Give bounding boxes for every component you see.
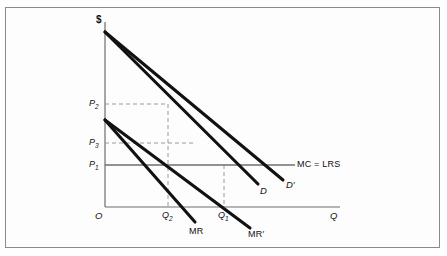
x-tick-q1-sub: 1 — [225, 215, 229, 222]
curve-label-mr: MR — [189, 227, 203, 236]
y-tick-p2: P2 — [89, 99, 99, 110]
y-tick-p1: P1 — [89, 160, 99, 171]
y-tick-p1-sub: 1 — [95, 164, 99, 171]
x-tick-q2: Q2 — [162, 211, 173, 222]
y-tick-p3-sub: 3 — [95, 142, 99, 149]
x-tick-q2-base: Q — [162, 210, 169, 220]
x-tick-q2-sub: 2 — [169, 215, 173, 222]
y-tick-p2-sub: 2 — [95, 103, 99, 110]
x-tick-q1: Q1 — [218, 211, 229, 222]
origin-label: O — [95, 211, 102, 221]
curve-demand-d — [105, 32, 258, 184]
curve-label-d-prime: D′ — [286, 180, 295, 190]
curve-label-d: D — [260, 186, 267, 196]
y-tick-p3: P3 — [89, 138, 99, 149]
economics-figure: $ Q O P2 P3 P1 Q2 Q1 MC = LRS D D′ MR MR… — [0, 0, 447, 256]
curve-demand-d-prime — [105, 32, 283, 180]
curve-label-mc-lrs: MC = LRS — [297, 160, 340, 169]
x-axis-title: Q — [330, 211, 337, 221]
y-axis-title: $ — [96, 15, 102, 25]
x-tick-q1-base: Q — [218, 210, 225, 220]
curve-label-mr-prime: MR′ — [248, 230, 264, 239]
